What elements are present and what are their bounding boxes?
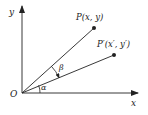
origin-label: O: [10, 89, 18, 99]
point-P-prime-label: P′(x′, y′): [96, 39, 130, 49]
point-P-prime: [112, 53, 116, 57]
beta-arc: [52, 66, 60, 77]
ray-OP: [22, 28, 94, 93]
x-axis-label: x: [131, 98, 136, 108]
alpha-label: α: [41, 83, 47, 92]
alpha-arc: [39, 85, 40, 93]
beta-label: β: [58, 63, 64, 72]
rotation-diagram: y x O P(x, y) P′(x′, y′) α β: [0, 0, 148, 115]
ray-OP-prime: [22, 55, 114, 93]
point-P-label: P(x, y): [75, 12, 103, 22]
point-P: [92, 26, 96, 30]
y-axis-label: y: [8, 7, 15, 17]
